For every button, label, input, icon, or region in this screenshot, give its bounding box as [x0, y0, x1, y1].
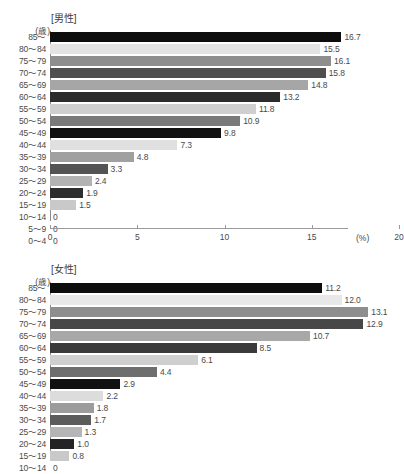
- female-value-label: 0.8: [72, 450, 84, 462]
- bar-row: 5～90: [0, 223, 398, 235]
- male-bar: [50, 176, 92, 186]
- male-value-label: 16.1: [334, 55, 350, 67]
- female-category-label: 30～34: [0, 414, 46, 426]
- female-category-label: 35～39: [0, 402, 46, 414]
- female-category-label: 15～19: [0, 450, 46, 462]
- male-value-label: 14.8: [311, 79, 327, 91]
- male-bar: [50, 68, 326, 78]
- bar-row: 65～6910.7: [0, 330, 398, 342]
- male-x-axis-unit: (%): [356, 233, 369, 243]
- female-chart: [女性] (歳) 85～11.280～8412.075～7913.170～741…: [0, 258, 398, 452]
- female-bar: [50, 379, 120, 389]
- female-value-label: 6.1: [201, 354, 213, 366]
- male-category-label: 50～54: [0, 115, 46, 127]
- male-bar: [50, 152, 134, 162]
- male-chart: [男性] (歳) 85～16.780～8415.575～7916.170～741…: [0, 0, 398, 255]
- female-value-label: 10.7: [313, 330, 329, 342]
- bar-row: 20～241.9: [0, 187, 398, 199]
- female-category-label: 80～84: [0, 294, 46, 306]
- male-value-label: 13.2: [283, 91, 299, 103]
- male-category-label: 25～29: [0, 175, 46, 187]
- female-bar: [50, 367, 157, 377]
- male-value-label: 9.8: [224, 127, 236, 139]
- male-bar: [50, 80, 308, 90]
- bar-row: 20～241.0: [0, 438, 398, 450]
- male-category-label: 75～79: [0, 55, 46, 67]
- bar-row: 35～391.8: [0, 402, 398, 414]
- bar-row: 25～291.3: [0, 426, 398, 438]
- male-category-label: 10～14: [0, 211, 46, 223]
- female-category-label: 50～54: [0, 366, 46, 378]
- male-value-label: 2.4: [95, 175, 107, 187]
- bar-row: 60～6413.2: [0, 91, 398, 103]
- female-category-label: 60～64: [0, 342, 46, 354]
- female-bar: [50, 343, 257, 353]
- bar-row: 50～544.4: [0, 366, 398, 378]
- female-category-label: 20～24: [0, 438, 46, 450]
- female-value-label: 1.8: [97, 402, 109, 414]
- male-bar: [50, 140, 177, 150]
- bar-row: 70～7412.9: [0, 318, 398, 330]
- male-bar: [50, 44, 320, 54]
- male-value-label: 4.8: [137, 151, 149, 163]
- male-x-tick-label: 5: [135, 232, 140, 242]
- male-category-label: 40～44: [0, 139, 46, 151]
- bar-row: 65～6914.8: [0, 79, 398, 91]
- female-category-label: 65～69: [0, 330, 46, 342]
- bar-row: 85～11.2: [0, 282, 398, 294]
- male-bar: [50, 116, 240, 126]
- male-value-label: 7.3: [180, 139, 192, 151]
- male-bar: [50, 188, 83, 198]
- female-value-label: 8.5: [260, 342, 272, 354]
- bar-row: 55～5911.8: [0, 103, 398, 115]
- male-bar: [50, 56, 331, 66]
- male-chart-title: [男性]: [51, 10, 77, 25]
- bar-row: 45～499.8: [0, 127, 398, 139]
- female-category-label: 55～59: [0, 354, 46, 366]
- bar-row: 30～341.7: [0, 414, 398, 426]
- male-value-label: 0: [53, 223, 58, 235]
- male-value-label: 15.8: [329, 67, 345, 79]
- bar-row: 80～8415.5: [0, 43, 398, 55]
- bar-row: 75～7913.1: [0, 306, 398, 318]
- male-value-label: 1.5: [79, 199, 91, 211]
- male-bar: [50, 104, 256, 114]
- female-value-label: 1.3: [85, 426, 97, 438]
- female-value-label: 13.1: [371, 306, 387, 318]
- female-bar: [50, 355, 198, 365]
- male-x-axis: [50, 228, 348, 229]
- bar-row: 10～140: [0, 462, 398, 474]
- male-bar: [50, 200, 76, 210]
- bar-row: 40～447.3: [0, 139, 398, 151]
- male-category-label: 0～4: [0, 235, 46, 247]
- female-bar: [50, 295, 342, 305]
- male-plot-area: 85～16.780～8415.575～7916.170～7415.865～691…: [0, 31, 398, 221]
- female-category-label: 45～49: [0, 378, 46, 390]
- bar-row: 45～492.9: [0, 378, 398, 390]
- female-value-label: 4.4: [160, 366, 172, 378]
- male-value-label: 0: [53, 211, 58, 223]
- bar-row: 85～16.7: [0, 31, 398, 43]
- female-bar: [50, 415, 91, 425]
- female-bar: [50, 403, 94, 413]
- male-value-label: 15.5: [323, 43, 339, 55]
- bar-row: 75～7916.1: [0, 55, 398, 67]
- male-category-label: 85～: [0, 31, 46, 43]
- bar-row: 55～596.1: [0, 354, 398, 366]
- male-bar: [50, 128, 221, 138]
- bar-row: 15～190.8: [0, 450, 398, 462]
- male-x-tick: [399, 225, 400, 229]
- male-category-label: 55～59: [0, 103, 46, 115]
- bar-row: 0～40: [0, 235, 398, 247]
- male-category-label: 15～19: [0, 199, 46, 211]
- bar-row: 70～7415.8: [0, 67, 398, 79]
- bar-row: 40～442.2: [0, 390, 398, 402]
- female-value-label: 12.0: [345, 294, 361, 306]
- male-category-label: 65～69: [0, 79, 46, 91]
- female-category-label: 75～79: [0, 306, 46, 318]
- male-value-label: 3.3: [111, 163, 123, 175]
- male-value-label: 11.8: [259, 103, 275, 115]
- bar-row: 50～5410.9: [0, 115, 398, 127]
- female-value-label: 1.0: [77, 438, 89, 450]
